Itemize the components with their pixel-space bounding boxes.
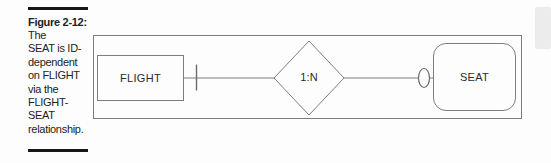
scan-artifact [535,7,551,49]
ellipse-cardinality-icon [419,69,430,88]
figure-2-12: Figure 2-12: The SEAT is ID- dependent o… [0,0,551,163]
relationship-label: 1:N [291,71,327,83]
entity-flight: FLIGHT [97,55,184,101]
entity-flight-label: FLIGHT [120,72,161,84]
entity-seat-label: SEAT [460,71,489,83]
entity-seat: SEAT [433,43,516,111]
